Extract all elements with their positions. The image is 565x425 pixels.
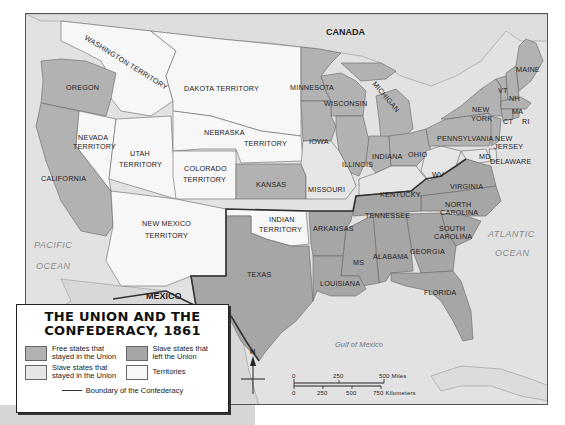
label-nebraska: NEBRASKA [204,128,245,137]
legend-item-border-slave-states: Slave states that stayed in the Union [25,364,120,380]
label-georgia: GEORGIA [410,247,445,256]
label-missouri: MISSOURI [308,185,345,194]
svg-text:250: 250 [317,390,328,396]
label-new-york: NEW [472,105,489,114]
label-north-carolina-2: CAROLINA [440,208,478,217]
label-texas: TEXAS [247,270,272,279]
label-ri: RI [522,117,530,126]
label-nebraska-territory: TERRITORY [244,139,287,148]
label-kentucky: KENTUCKY [380,190,421,199]
label-nevada: NEVADA [78,133,108,142]
label-pacific: PACIFIC [34,240,72,250]
svg-text:500: 500 [346,390,357,396]
svg-text:750 Kilometers: 750 Kilometers [373,390,416,396]
label-pennsylvania: PENNSYLVANIA [437,134,493,143]
label-utah-territory: TERRITORY [119,160,162,169]
label-alabama: ALABAMA [373,252,408,261]
label-dakota-territory: DAKOTA TERRITORY [184,84,259,93]
label-indian-territory: TERRITORY [259,225,302,234]
svg-text:0: 0 [292,373,296,379]
swatch-free-states [25,346,47,361]
label-nh: NH [509,94,520,103]
boundary-line-swatch [62,390,82,391]
label-atlantic: ATLANTIC [487,229,535,239]
label-maine: MAINE [516,65,540,74]
label-indian: INDIAN [269,215,295,224]
label-atlantic-ocean: OCEAN [495,248,530,258]
swatch-border-slave-states [25,365,47,380]
label-kansas: KANSAS [256,180,286,189]
label-md: MD [479,152,491,161]
label-new-mexico-territory: TERRITORY [145,231,188,240]
label-colorado-territory: TERRITORY [183,175,226,184]
label-indiana: INDIANA [372,152,403,161]
legend-item-free-states: Free states that stayed in the Union [25,345,120,361]
label-new-jersey-2: JERSEY [494,142,523,151]
legend-item-seceded-states: Slave states that left the Union [126,345,221,361]
svg-text:500 Miles: 500 Miles [379,373,406,379]
swatch-territories [126,365,148,380]
label-south-carolina-2: CAROLINA [434,232,472,241]
label-utah: UTAH [130,149,150,158]
label-wv: WV [432,170,444,179]
label-minnesota: MINNESOTA [290,83,334,92]
svg-text:N: N [250,347,255,356]
label-new-york-2: YORK [471,114,492,123]
legend-item-territories: Territories [126,364,221,380]
label-tennessee: TENNESSEE [365,211,410,220]
swatch-seceded-states [126,346,148,361]
label-california: CALIFORNIA [41,174,86,183]
legend-item-boundary: Boundary of the Confederacy [25,386,220,395]
label-arkansas: ARKANSAS [313,224,354,233]
label-mexico: MEXICO [146,291,182,301]
legend-title: THE UNION AND THE CONFEDERACY, 1861 [25,310,220,338]
label-new-mexico: NEW MEXICO [142,219,191,228]
label-ct: CT [503,117,513,126]
label-louisiana: LOUISIANA [320,279,360,288]
label-ms: MS [353,258,364,267]
label-florida: FLORIDA [424,288,457,297]
label-colorado: COLORADO [184,164,227,173]
label-canada: CANADA [326,27,365,37]
svg-text:0: 0 [292,390,296,396]
svg-text:250: 250 [333,373,344,379]
label-ma: MA [512,107,523,116]
label-gulf-of-mexico: Gulf of Mexico [335,340,383,349]
label-delaware: DELAWARE [490,157,531,166]
label-oregon: OREGON [66,83,99,92]
label-vt: VT [498,86,508,95]
label-illinois: ILLINOIS [342,160,373,169]
label-virginia: VIRGINIA [450,182,483,191]
label-iowa: IOWA [309,137,329,146]
label-pacific-ocean: OCEAN [36,261,71,271]
label-wisconsin: WISCONSIN [324,99,367,108]
map-legend: THE UNION AND THE CONFEDERACY, 1861 Free… [16,304,229,413]
label-nevada-territory: TERRITORY [73,142,116,151]
label-ohio: OHIO [408,150,427,159]
